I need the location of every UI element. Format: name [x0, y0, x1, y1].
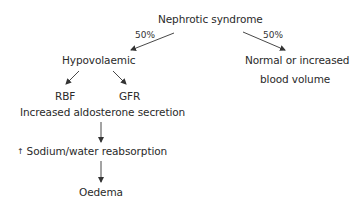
node-hypovolaemic: Hypovolaemic	[62, 54, 135, 66]
up-arrow-icon: ↑	[17, 146, 24, 158]
percent-label-hypovolaemic: 50%	[135, 30, 155, 40]
node-rbf: RBF	[55, 90, 75, 102]
node-oedema: Oedema	[79, 186, 123, 198]
node-gfr: GFR	[119, 90, 140, 102]
node-sodium-water-reabsorption: ↑Sodium/water reabsorption	[17, 145, 167, 158]
sodium-water-label: Sodium/water reabsorption	[27, 145, 167, 157]
node-normal-or-increased: Normal or increased	[245, 54, 349, 66]
arrow-hypovolaemic-to-gfr	[113, 71, 126, 84]
diagram-arrows	[0, 0, 360, 206]
arrow-hypovolaemic-to-rbf	[66, 71, 79, 84]
node-nephrotic-syndrome: Nephrotic syndrome	[158, 13, 263, 25]
percent-label-normal-volume: 50%	[263, 30, 283, 40]
node-blood-volume: blood volume	[260, 73, 330, 85]
node-increased-aldosterone: Increased aldosterone secretion	[20, 106, 185, 118]
